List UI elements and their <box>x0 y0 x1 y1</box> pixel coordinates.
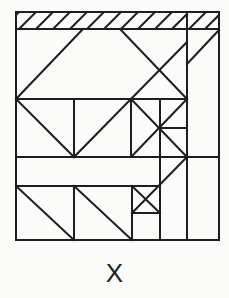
figure-label: X <box>0 258 229 289</box>
hatch-band <box>2 12 189 29</box>
outer-frame <box>16 12 219 240</box>
geometric-figure <box>0 0 229 298</box>
